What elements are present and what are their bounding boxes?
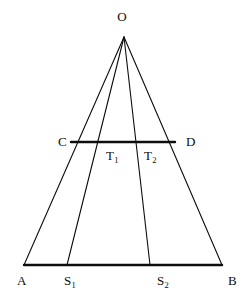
point-label-O-text: O: [117, 9, 126, 24]
point-label-T2-text: T: [144, 148, 152, 163]
point-label-S1-text: S: [64, 273, 71, 288]
point-label-T2: T2: [144, 149, 156, 162]
segment-OB: [124, 37, 222, 265]
figure-canvas: [0, 0, 247, 307]
point-label-T1-sub: 1: [114, 155, 118, 165]
point-label-S2-text: S: [157, 273, 164, 288]
point-label-T1-text: T: [106, 148, 114, 163]
point-label-T2-sub: 2: [152, 155, 156, 165]
segments-group: [24, 37, 222, 265]
geometry-figure: O C D T1 T2 A S1 S2 B: [0, 0, 247, 307]
point-label-A-text: A: [17, 273, 26, 288]
point-label-T1: T1: [106, 149, 118, 162]
point-label-C-text: C: [58, 134, 67, 149]
point-label-S2: S2: [157, 274, 168, 287]
point-label-S1: S1: [64, 274, 75, 287]
point-label-B: B: [228, 274, 237, 287]
point-label-B-text: B: [228, 273, 237, 288]
point-label-D-text: D: [186, 134, 195, 149]
point-label-S1-sub: 1: [72, 280, 76, 290]
point-label-C: C: [58, 135, 67, 148]
point-label-D: D: [186, 135, 195, 148]
point-label-A: A: [17, 274, 26, 287]
point-label-S2-sub: 2: [165, 280, 169, 290]
point-label-O: O: [117, 10, 126, 23]
